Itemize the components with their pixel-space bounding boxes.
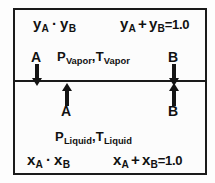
vapor-species-b-label: B xyxy=(168,50,178,64)
liquid-x-b-term: xB xyxy=(54,151,70,168)
vapor-temperature-symbol: TVapor xyxy=(96,49,130,64)
vapor-sum-y-a-term: yA xyxy=(120,15,136,32)
vapor-sum-operator: + xyxy=(136,15,149,32)
liquid-composition-product-expression: xA·xB xyxy=(27,152,70,170)
liquid-phase-properties-label: PLiquid,TLiquid xyxy=(55,130,132,146)
liquid-sum-x-a-term: xA xyxy=(113,151,129,168)
liquid-product-operator: · xyxy=(43,151,54,168)
vapor-species-a-label: A xyxy=(31,50,41,64)
arrow-head xyxy=(169,83,179,91)
liquid-temperature-symbol: TLiquid xyxy=(96,129,132,144)
vapor-composition-product-expression: yA·yB xyxy=(33,16,76,34)
arrow-head xyxy=(62,83,72,91)
arrow-shaft xyxy=(172,64,176,79)
liquid-composition-sum-expression: xA+xB=1.0 xyxy=(113,152,182,170)
arrow-head xyxy=(32,78,42,86)
liquid-species-a-label: A xyxy=(61,104,71,118)
liquid-x-a-term: xA xyxy=(27,151,43,168)
vapor-product-operator: · xyxy=(49,15,60,32)
vapor-composition-sum-expression: yA+yB=1.0 xyxy=(120,16,189,34)
liquid-pressure-symbol: PLiquid xyxy=(55,129,92,144)
liquid-sum-operator: + xyxy=(129,151,142,168)
liquid-species-b-label: B xyxy=(168,104,178,118)
vapor-sum-equals-value: =1.0 xyxy=(165,17,189,32)
liquid-sum-equals-value: =1.0 xyxy=(158,153,182,168)
vle-two-phase-diagram: yA·yB yA+yB=1.0 PVapor,TVapor A B A B PL… xyxy=(0,0,215,183)
vapor-y-b-term: yB xyxy=(60,15,76,32)
vapor-phase-properties-label: PVapor,TVapor xyxy=(57,50,130,66)
vapor-y-a-term: yA xyxy=(33,15,49,32)
vapor-sum-y-b-term: yB xyxy=(149,15,165,32)
liquid-sum-x-b-term: xB xyxy=(142,151,158,168)
vapor-pressure-symbol: PVapor xyxy=(57,49,92,64)
arrow-shaft xyxy=(35,64,39,79)
